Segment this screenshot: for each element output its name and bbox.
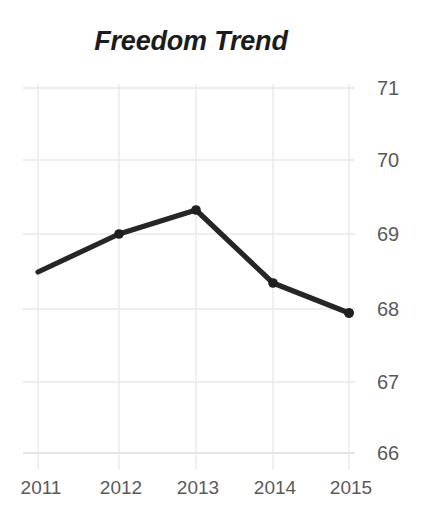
xtick-label-2014: 2014 (254, 478, 296, 497)
grid-lines-horizontal (23, 88, 355, 453)
line-chart-plot (0, 0, 425, 520)
xtick-label-2013: 2013 (177, 478, 219, 497)
data-point-2012 (191, 205, 201, 215)
grid-lines-vertical (38, 84, 349, 470)
ytick-label-70: 70 (377, 150, 399, 170)
chart-container: Freedom Trend 71 70 69 68 67 (0, 0, 425, 520)
xtick-label-2011: 2011 (21, 478, 62, 497)
ytick-label-69: 69 (377, 224, 399, 244)
data-point-2015 (344, 308, 354, 318)
data-line-freedom-trend (38, 210, 349, 313)
xtick-label-2015: 2015 (330, 478, 372, 497)
data-point-2011 (114, 229, 124, 239)
ytick-label-67: 67 (377, 372, 399, 392)
ytick-label-71: 71 (377, 78, 399, 98)
ytick-label-66: 66 (377, 443, 399, 463)
xtick-label-2012: 2012 (100, 478, 142, 497)
data-point-2013 (268, 278, 278, 288)
ytick-label-68: 68 (377, 299, 399, 319)
